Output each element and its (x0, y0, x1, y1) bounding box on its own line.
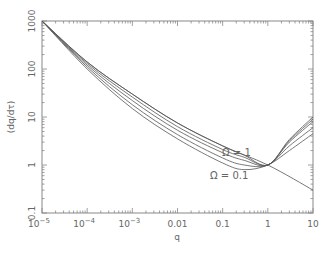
curve-asymptote (42, 21, 313, 190)
x-tick-label: 10−3 (118, 217, 140, 229)
y-tick-label: 1 (27, 162, 37, 168)
x-tick-label: 10 (307, 219, 319, 229)
annotation-omega-1: Ω = 1 (222, 147, 251, 158)
y-tick-label: 10 (27, 111, 37, 123)
plot-frame (42, 21, 313, 213)
curve--0-4 (42, 21, 313, 166)
x-tick-label: 1 (265, 219, 271, 229)
axis-ticks (42, 21, 313, 213)
y-tick-label: 0.1 (27, 206, 37, 220)
y-tick-label: 1000 (27, 9, 37, 32)
x-tick-label: 10−4 (73, 217, 95, 229)
y-tick-label: 100 (27, 60, 37, 77)
chart: 10−510−410−30.010.1110 0.11101001000 q (… (0, 0, 331, 254)
curve--0-2 (42, 21, 313, 167)
x-tick-label: 0.01 (167, 219, 187, 229)
y-axis-label: (dq/dτ) (6, 101, 16, 134)
x-axis-label: q (174, 232, 180, 242)
curve--1 (42, 21, 313, 165)
curve--0-6 (42, 21, 313, 166)
data-curves (42, 21, 313, 190)
annotation-omega-0-1: Ω = 0.1 (210, 170, 248, 181)
curve--0-1 (42, 21, 313, 170)
y-tick-labels: 0.11101001000 (27, 9, 37, 220)
x-tick-label: 0.1 (216, 219, 230, 229)
plot-axes (42, 21, 313, 213)
x-tick-labels: 10−510−410−30.010.1110 (28, 217, 319, 229)
